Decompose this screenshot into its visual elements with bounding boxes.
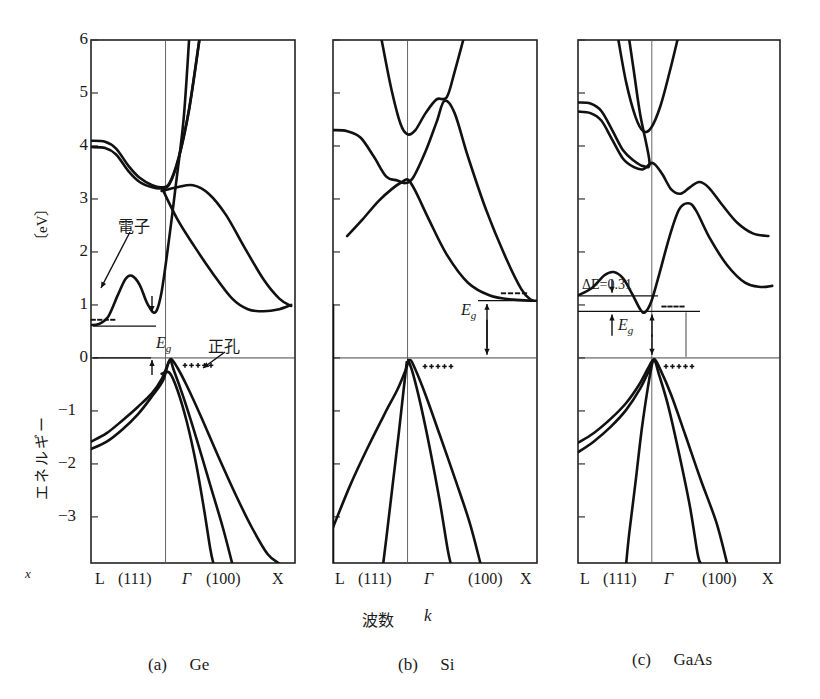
panels-layer [91, 40, 780, 564]
y-tick-label-neg1: −1 [52, 400, 76, 420]
x-axis-label: 波数 [362, 607, 394, 631]
y-tick-label-1: 1 [64, 294, 88, 314]
gaas-delta-e-label: ΔE=0.31 [582, 277, 632, 293]
y-tick-label-5: 5 [64, 82, 88, 102]
y-tick-label-neg3: −3 [52, 506, 76, 526]
x-tick-gaas-1: (111) [603, 570, 636, 588]
panel-gaas [578, 40, 780, 563]
panel-ge [91, 40, 295, 563]
caption-gaas-index: (c) [632, 650, 651, 669]
si-eg-arrow-up-head [484, 304, 489, 310]
si-eg-arrow-down-head [484, 349, 489, 355]
band-curve-valence-hh [333, 360, 481, 563]
band-curve-conduction-upper-2 [578, 40, 650, 167]
x-tick-si-3: (100) [468, 570, 503, 588]
axis-corner-mark: x [25, 566, 31, 582]
x-tick-gaas-4: X [762, 570, 774, 588]
curves-si [333, 40, 537, 564]
panel-si [333, 40, 537, 563]
gaas-bandgap-label: Eg [618, 316, 633, 336]
ge-eg-arrow-up-head [149, 360, 154, 366]
x-tick-si-0: L [335, 570, 345, 588]
band-curve-conduction-top-branch [618, 40, 677, 132]
caption-ge-name: Ge [189, 655, 209, 674]
ge-electron-label: 電子 [118, 213, 150, 237]
y-tick-label-0: 0 [64, 347, 88, 367]
caption-si: (b) Si [398, 655, 455, 675]
band-curve-conduction-X-branch [162, 187, 291, 311]
x-tick-gaas-2: Γ [664, 570, 673, 588]
x-tick-ge-3: (100) [206, 570, 241, 588]
x-tick-ge-0: L [95, 570, 105, 588]
gaas-deltae-arrow-up-head [609, 314, 614, 320]
band-curve-conduction-X-upper [162, 185, 291, 306]
annotations-layer [91, 232, 700, 375]
x-tick-si-4: X [520, 570, 532, 588]
x-tick-si-2: Γ [424, 570, 433, 588]
caption-gaas: (c) GaAs [632, 650, 712, 670]
caption-si-index: (b) [398, 655, 418, 674]
y-tick-label-neg2: −2 [52, 453, 76, 473]
y-tick-label-6: 6 [64, 29, 88, 49]
si-bandgap-label: Eg [461, 301, 476, 321]
band-curve-conduction-upper-1 [578, 112, 768, 237]
y-axis-label: エネルギー [30, 415, 51, 500]
band-curve-valence-light-hole [91, 360, 232, 563]
y-axis-unit: 〔eV〕 [30, 201, 51, 249]
x-tick-ge-2: Γ [182, 570, 191, 588]
ge-bandgap-label: Eg [156, 334, 171, 354]
x-tick-si-1: (111) [358, 570, 391, 588]
curves-ge [91, 40, 291, 564]
x-tick-ge-4: X [272, 570, 284, 588]
y-tick-label-3: 3 [64, 188, 88, 208]
caption-gaas-name: GaAs [673, 650, 712, 669]
x-tick-gaas-3: (100) [702, 570, 737, 588]
band-curve-valence-lh [578, 360, 701, 564]
gaas-eg-arrow-up-head [649, 314, 654, 320]
curves-gaas [578, 40, 772, 564]
band-structure-figure: エネルギー 〔eV〕 波数 k x 電子 正孔 Eg Eg ΔE=0.31 Eg… [0, 0, 820, 699]
panel-frame-ge [91, 40, 295, 563]
ge-hole-label: 正孔 [208, 333, 240, 357]
figure-canvas [0, 0, 820, 699]
band-curve-valence-top-1 [347, 179, 533, 300]
band-curve-conduction-lower [333, 101, 537, 301]
panel-frame-si [333, 40, 537, 563]
x-tick-ge-1: (111) [118, 570, 151, 588]
band-curve-valence-heavy-hole [91, 359, 279, 564]
caption-si-name: Si [440, 655, 454, 674]
y-tick-label-2: 2 [64, 241, 88, 261]
band-curve-conduction-upper [382, 40, 464, 135]
caption-ge-index: (a) [148, 655, 167, 674]
caption-ge: (a) Ge [148, 655, 209, 675]
band-curve-valence-hh [578, 359, 727, 564]
panel-frame-gaas [578, 40, 780, 563]
gaas-eg-arrow-down-head [649, 349, 654, 355]
y-tick-label-4: 4 [64, 135, 88, 155]
x-tick-gaas-0: L [580, 570, 590, 588]
x-axis-label-symbol: k [424, 606, 432, 626]
band-curve-valence-lh [408, 360, 450, 563]
